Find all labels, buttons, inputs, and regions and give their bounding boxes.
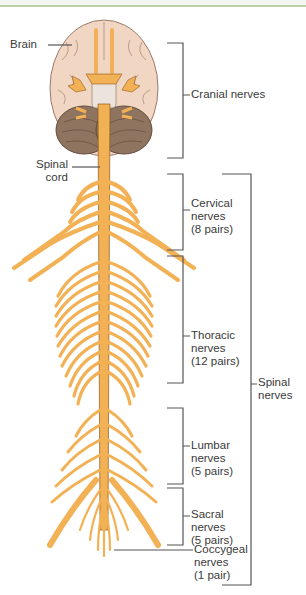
spinal-cord (98, 104, 110, 530)
label-sacral-nerves: Sacral nerves (5 pairs) (191, 508, 233, 547)
label-lumbar-nerves: Lumbar nerves (5 pairs) (191, 439, 233, 478)
label-brain: Brain (10, 38, 37, 51)
label-thoracic-nerves: Thoracic nerves (12 pairs) (191, 329, 240, 368)
label-spinal-cord: Spinal cord (36, 158, 68, 184)
label-cervical-nerves: Cervical nerves (8 pairs) (191, 197, 233, 236)
label-spinal-nerves: Spinal nerves (258, 376, 293, 402)
label-coccygeal-nerves: Coccygeal nerves (1 pair) (194, 543, 248, 582)
label-cranial-nerves: Cranial nerves (191, 88, 265, 101)
